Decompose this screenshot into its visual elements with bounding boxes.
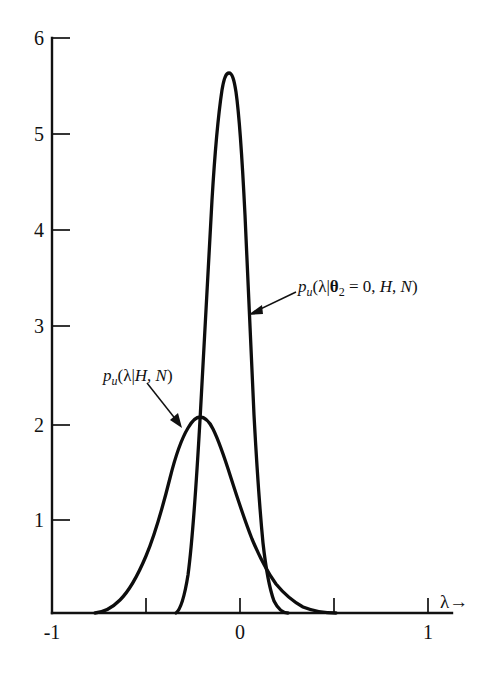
lambda-symbol: λ: [440, 591, 449, 612]
x-tick-label-1: 1: [408, 622, 448, 642]
y-axis-ticks: [52, 38, 70, 520]
right-arrow-icon: →: [449, 591, 468, 612]
chart-canvas: [0, 0, 490, 673]
y-tick-label-2: 2: [20, 415, 44, 435]
y-tick-label-4: 4: [20, 220, 44, 240]
y-tick-label-3: 3: [20, 316, 44, 336]
curve-narrow-posterior: [176, 73, 288, 613]
x-tick-label-minus-1: -1: [32, 622, 72, 642]
curve-label-narrow: pu(λ|θ2 = 0, H, N): [298, 277, 418, 300]
label-narrow-H: H: [380, 277, 392, 296]
label-narrow-equals-zero: = 0,: [345, 277, 380, 296]
label-narrow-theta: θ: [330, 277, 339, 296]
label-broad-comma: ,: [147, 366, 156, 385]
label-narrow-p: p: [298, 277, 307, 296]
annotation-leader-narrow: [248, 292, 296, 315]
label-narrow-N: N: [401, 277, 412, 296]
x-tick-label-0: 0: [220, 622, 260, 642]
label-broad-close-paren: ): [167, 366, 173, 385]
label-broad-H: H: [135, 366, 147, 385]
y-tick-label-5: 5: [20, 124, 44, 144]
y-tick-label-1: 1: [20, 510, 44, 530]
annotation-leader-broad: [147, 383, 182, 428]
y-tick-label-6: 6: [20, 28, 44, 48]
x-axis-title: λ→: [440, 592, 468, 611]
figure-root: 6 5 4 3 2 1 -1 0 1 λ→ pu(λ|θ2 = 0, H, N)…: [0, 0, 490, 673]
curve-label-broad: pu(λ|H, N): [103, 366, 173, 389]
label-broad-N: N: [156, 366, 167, 385]
x-axis-ticks: [146, 598, 428, 613]
label-broad-p: p: [103, 366, 112, 385]
curve-broad-posterior: [95, 417, 336, 613]
label-narrow-close-paren: ): [412, 277, 418, 296]
label-narrow-comma: ,: [392, 277, 401, 296]
